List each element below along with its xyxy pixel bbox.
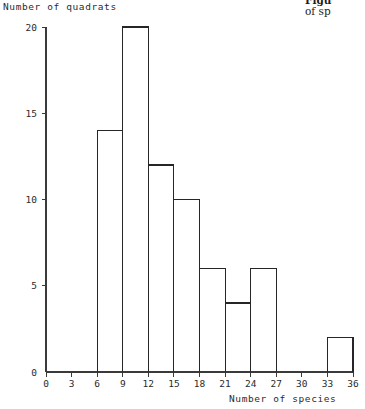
y-axis-tick-label: 10 [26, 194, 38, 205]
histogram-bar [97, 131, 123, 373]
histogram-bar [327, 338, 353, 373]
x-axis-tick-label: 0 [43, 378, 49, 389]
x-axis-tick-label: 9 [120, 378, 126, 389]
x-axis-tick-label: 12 [143, 378, 154, 389]
histogram-plot: 05101520 0369121518212427303336 [0, 0, 365, 409]
x-axis-tick-label: 18 [194, 378, 206, 389]
y-axis-tick-label: 5 [31, 280, 37, 291]
y-axis-tick-label: 0 [31, 367, 37, 378]
x-axis: 0369121518212427303336 [43, 372, 359, 389]
x-axis-tick-label: 27 [271, 378, 282, 389]
histogram-bar [123, 27, 149, 372]
x-axis-tick-label: 36 [347, 378, 359, 389]
x-axis-tick-label: 21 [219, 378, 231, 389]
histogram-figure: Number of quadrats Figu of sp 05101520 0… [0, 0, 365, 409]
x-axis-tick-label: 24 [245, 378, 257, 389]
y-axis: 05101520 [26, 22, 46, 378]
histogram-bar [174, 200, 200, 373]
x-axis-tick-label: 30 [296, 378, 308, 389]
histogram-bar [225, 303, 251, 372]
x-axis-tick-label: 15 [168, 378, 179, 389]
y-axis-tick-label: 20 [26, 22, 38, 33]
x-axis-tick-label: 3 [69, 378, 75, 389]
histogram-bars [97, 27, 353, 372]
histogram-bar [148, 165, 174, 372]
x-axis-title: Number of species [229, 393, 336, 404]
histogram-bar [251, 269, 277, 373]
histogram-bar [200, 269, 226, 373]
x-axis-tick-label: 33 [322, 378, 333, 389]
y-axis-tick-label: 15 [26, 108, 37, 119]
x-axis-tick-label: 6 [94, 378, 100, 389]
